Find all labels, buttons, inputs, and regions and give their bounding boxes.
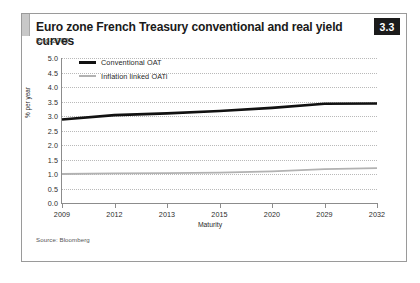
legend-item-conventional-oat: Conventional OAT xyxy=(79,56,168,68)
figure-root: Euro zone French Treasury conventional a… xyxy=(0,0,420,283)
chart-legend: Conventional OAT Inflation linked OATi xyxy=(79,56,168,84)
x-tick-mark xyxy=(377,203,378,208)
y-tick-label: 3.0 xyxy=(32,112,58,121)
figure-number-badge: 3.3 xyxy=(374,18,400,35)
panel-edge-tab xyxy=(22,14,30,36)
legend-swatch-inflation-linked-oati xyxy=(79,75,96,77)
x-tick-label: 2020 xyxy=(252,210,292,219)
x-tick-label: 2009 xyxy=(42,210,82,219)
y-tick-label: 4.5 xyxy=(32,69,58,78)
y-tick-label: 5.0 xyxy=(32,54,58,63)
legend-label-conventional-oat: Conventional OAT xyxy=(101,58,162,67)
x-tick-mark xyxy=(167,203,168,208)
y-tick-label: 2.5 xyxy=(32,127,58,136)
y-tick-label: 3.5 xyxy=(32,98,58,107)
x-tick-label: 2012 xyxy=(95,210,135,219)
series-line-inflation-linked-oati xyxy=(62,168,377,174)
y-tick-label: 1.5 xyxy=(32,156,58,165)
y-axis-label: % per year xyxy=(24,87,31,118)
y-tick-label: 0.0 xyxy=(32,199,58,208)
x-tick-label: 2032 xyxy=(357,210,397,219)
source-note: Source: Bloomberg xyxy=(36,236,90,243)
legend-label-inflation-linked-oati: Inflation linked OATi xyxy=(101,72,168,81)
x-tick-mark xyxy=(325,203,326,208)
series-line-conventional-oat xyxy=(62,104,377,120)
x-tick-label: 2015 xyxy=(200,210,240,219)
y-tick-label: 4.0 xyxy=(32,83,58,92)
legend-item-inflation-linked-oati: Inflation linked OATi xyxy=(79,70,168,82)
y-tick-label: 2.0 xyxy=(32,141,58,150)
y-tick-label: 0.5 xyxy=(32,185,58,194)
legend-swatch-conventional-oat xyxy=(79,61,96,64)
x-tick-mark xyxy=(220,203,221,208)
y-tick-label: 1.0 xyxy=(32,170,58,179)
x-tick-mark xyxy=(62,203,63,208)
chart-subtitle: End-2005 xyxy=(36,36,69,45)
x-tick-mark xyxy=(115,203,116,208)
page-title: Euro zone French Treasury conventional a… xyxy=(36,20,346,48)
x-tick-label: 2029 xyxy=(305,210,345,219)
x-tick-label: 2013 xyxy=(147,210,187,219)
x-axis-label: Maturity xyxy=(0,221,420,228)
x-tick-mark xyxy=(272,203,273,208)
